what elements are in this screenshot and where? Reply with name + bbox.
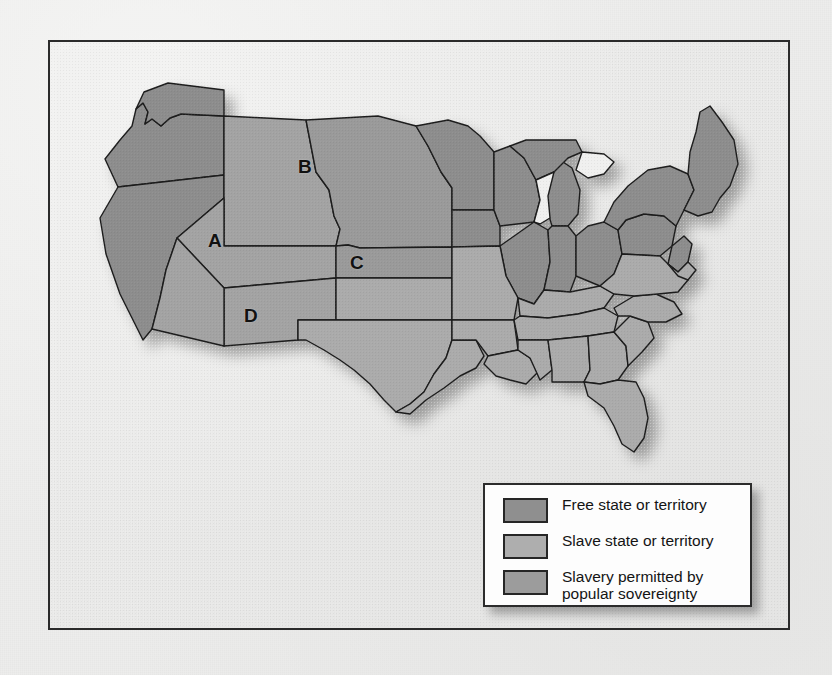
figure-frame (48, 40, 790, 630)
